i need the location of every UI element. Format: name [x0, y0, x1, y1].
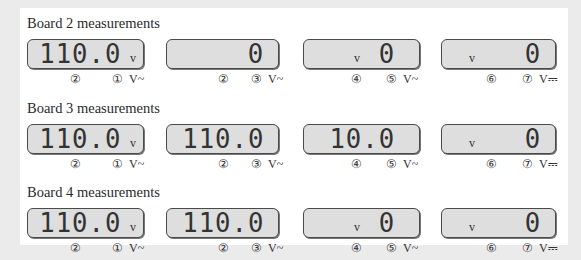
- terminal-label: ⑤: [386, 157, 397, 172]
- terminal-label: ③: [251, 241, 262, 256]
- lcd-reading: 0: [525, 127, 541, 151]
- unit-label: v: [130, 136, 136, 151]
- lcd-display: 110.0: [35, 211, 121, 235]
- terminal-label: ②: [70, 157, 81, 172]
- meter-4: v 0: [441, 208, 556, 238]
- terminal-label: ②: [218, 241, 229, 256]
- meter-3-labels: ④ ⑤ V~: [303, 72, 443, 86]
- lcd-display: 0: [524, 42, 541, 66]
- terminal-label: ①: [112, 157, 123, 172]
- mode-label: V~: [129, 157, 144, 172]
- unit-label: v: [469, 51, 475, 66]
- terminal-label: ⑦: [522, 72, 533, 87]
- lcd-reading: 110.0: [39, 211, 121, 235]
- meter-1-labels: ② ① V~: [27, 72, 167, 86]
- meter-2-labels: ② ③ V~: [166, 72, 306, 86]
- mode-label: V~: [403, 241, 418, 256]
- terminal-label: ②: [218, 157, 229, 172]
- mode-label: V⎓: [539, 72, 558, 87]
- lcd-display: 110.0: [35, 127, 121, 151]
- meter-3-labels: ④ ⑤ V~: [303, 157, 443, 171]
- lcd-reading: 0: [525, 42, 541, 66]
- mode-label: V~: [129, 72, 144, 87]
- lcd-reading: 0: [525, 211, 541, 235]
- board-3-section: Board 3 measurements 110.0 v ② ① V~ 110.…: [20, 99, 568, 177]
- lcd-display: 110.0: [178, 211, 264, 235]
- lcd-reading: 0: [379, 211, 395, 235]
- lcd-reading: 110.0: [182, 211, 264, 235]
- lcd-display: 0: [378, 211, 395, 235]
- meter-3: v 0: [303, 39, 420, 69]
- meter-4-labels: ⑥ ⑦ V⎓: [441, 72, 581, 86]
- terminal-label: ④: [351, 72, 362, 87]
- mode-label: V~: [268, 157, 283, 172]
- board-4-section: Board 4 measurements 110.0 v ② ① V~ 110.…: [20, 183, 568, 260]
- terminal-label: ②: [70, 72, 81, 87]
- terminal-label: ⑥: [486, 157, 497, 172]
- unit-label: v: [354, 220, 360, 235]
- lcd-reading: 0: [248, 42, 264, 66]
- lcd-display: 0: [524, 211, 541, 235]
- terminal-label: ②: [70, 241, 81, 256]
- meter-4-labels: ⑥ ⑦ V⎓: [441, 241, 581, 255]
- terminal-label: ③: [251, 157, 262, 172]
- meter-4: v 0: [441, 39, 556, 69]
- lcd-display: 0: [247, 42, 264, 66]
- lcd-display: 110.0: [35, 42, 121, 66]
- board-title: Board 2 measurements: [27, 14, 160, 32]
- lcd-reading: 110.0: [182, 127, 264, 151]
- meter-3: v 0: [303, 208, 420, 238]
- board-title: Board 3 measurements: [27, 99, 160, 117]
- unit-label: v: [354, 51, 360, 66]
- meter-1: 110.0 v: [27, 208, 144, 238]
- terminal-label: ②: [218, 72, 229, 87]
- meter-4-labels: ⑥ ⑦ V⎓: [441, 157, 581, 171]
- meter-2: 110.0: [166, 124, 279, 154]
- meter-2: 110.0: [166, 208, 279, 238]
- lcd-reading: 10.0: [329, 127, 395, 151]
- meter-2-labels: ② ③ V~: [166, 157, 306, 171]
- lcd-reading: 110.0: [39, 42, 121, 66]
- mode-label: V~: [268, 72, 283, 87]
- terminal-label: ⑦: [522, 241, 533, 256]
- mode-label: V~: [129, 241, 144, 256]
- lcd-reading: 110.0: [39, 127, 121, 151]
- meter-1: 110.0 v: [27, 124, 144, 154]
- lcd-display: 10.0: [326, 127, 395, 151]
- mode-label: V⎓: [539, 241, 558, 256]
- mode-label: V~: [268, 241, 283, 256]
- terminal-label: ①: [112, 72, 123, 87]
- meter-1: 110.0 v: [27, 39, 144, 69]
- terminal-label: ④: [351, 157, 362, 172]
- terminal-label: ⑦: [522, 157, 533, 172]
- meter-1-labels: ② ① V~: [27, 241, 167, 255]
- meter-3-labels: ④ ⑤ V~: [303, 241, 443, 255]
- measurements-panel: Board 2 measurements 110.0 v ② ① V~ 0 ② …: [20, 8, 568, 245]
- mode-label: V⎓: [539, 157, 558, 172]
- terminal-label: ⑤: [386, 72, 397, 87]
- terminal-label: ⑥: [486, 241, 497, 256]
- terminal-label: ④: [351, 241, 362, 256]
- meter-1-labels: ② ① V~: [27, 157, 167, 171]
- terminal-label: ③: [251, 72, 262, 87]
- board-title: Board 4 measurements: [27, 183, 160, 201]
- unit-label: v: [469, 136, 475, 151]
- unit-label: v: [469, 220, 475, 235]
- mode-label: V~: [403, 72, 418, 87]
- meter-4: v 0: [441, 124, 556, 154]
- unit-label: v: [130, 220, 136, 235]
- terminal-label: ①: [112, 241, 123, 256]
- mode-label: V~: [403, 157, 418, 172]
- lcd-reading: 0: [379, 42, 395, 66]
- meter-2-labels: ② ③ V~: [166, 241, 306, 255]
- lcd-display: 110.0: [178, 127, 264, 151]
- lcd-display: 0: [524, 127, 541, 151]
- terminal-label: ⑥: [486, 72, 497, 87]
- board-2-section: Board 2 measurements 110.0 v ② ① V~ 0 ② …: [20, 14, 568, 92]
- unit-label: v: [130, 51, 136, 66]
- meter-3: 10.0: [303, 124, 420, 154]
- terminal-label: ⑤: [386, 241, 397, 256]
- meter-2: 0: [166, 39, 279, 69]
- lcd-display: 0: [378, 42, 395, 66]
